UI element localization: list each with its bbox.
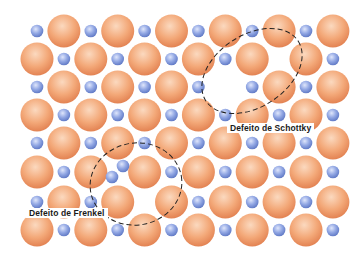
large-ion [21,43,54,76]
small-ion [31,25,44,38]
small-ion [219,166,232,179]
large-ion [101,127,134,160]
large-ion [74,214,107,247]
large-ion [236,214,269,247]
large-ion [74,43,107,76]
small-ion [31,81,44,94]
small-ion [58,224,71,237]
small-ion [300,81,313,94]
large-ion [155,186,188,219]
small-ion [246,81,259,94]
small-ion [85,81,98,94]
large-ion [316,127,349,160]
small-ion [165,166,178,179]
large-ion [290,214,323,247]
small-ion [246,196,259,209]
small-ion [273,109,286,122]
large-ion [101,15,134,48]
large-ion [128,156,161,189]
large-ion [74,156,107,189]
frenkel-defect-label: Defeito de Frenkel [26,208,108,218]
large-ion [155,127,188,160]
large-ion [236,156,269,189]
large-ion [47,127,80,160]
small-ion [117,160,130,173]
small-ion [85,25,98,38]
small-ion [300,137,313,150]
large-ion [128,214,161,247]
large-ion [47,15,80,48]
large-ion [101,71,134,104]
small-ion [192,196,205,209]
large-ion [263,15,296,48]
large-ion [290,43,323,76]
small-ion [31,137,44,150]
large-ion [182,43,215,76]
small-ion [31,196,44,209]
large-ion [155,15,188,48]
large-ion [290,156,323,189]
small-ion [327,166,340,179]
large-ion [182,99,215,132]
small-ion [300,25,313,38]
large-ion [316,15,349,48]
small-ion [246,25,259,38]
small-ion [111,53,124,66]
small-ion [58,166,71,179]
small-ion [327,53,340,66]
small-ion [58,53,71,66]
small-ion [106,171,119,184]
large-ion [21,156,54,189]
small-ion [219,109,232,122]
small-ion [138,25,151,38]
small-ion [111,109,124,122]
small-ion [85,196,98,209]
schottky-defect-label: Defeito de Schottky [227,123,314,133]
large-ion [74,99,107,132]
small-ion [165,53,178,66]
large-ion [182,214,215,247]
small-ion [192,137,205,150]
large-ion [182,156,215,189]
small-ion [219,53,232,66]
small-ion [138,81,151,94]
large-ion [236,43,269,76]
large-ion [128,99,161,132]
small-ion [58,109,71,122]
small-ion [192,25,205,38]
large-ion [209,15,242,48]
small-ion [111,224,124,237]
small-ion [246,137,259,150]
large-ion [263,71,296,104]
small-ion [219,224,232,237]
small-ion [273,224,286,237]
large-ion [128,43,161,76]
large-ion [316,71,349,104]
small-ion [327,224,340,237]
small-ion [300,196,313,209]
small-ion [273,166,286,179]
small-ion [327,109,340,122]
small-ion [165,109,178,122]
large-ion [209,186,242,219]
large-ion [21,214,54,247]
small-ion [165,224,178,237]
large-ion [47,71,80,104]
small-ion [192,81,205,94]
large-ion [263,186,296,219]
large-ion [155,71,188,104]
large-ion [316,186,349,219]
small-ion [85,137,98,150]
large-ion [21,99,54,132]
